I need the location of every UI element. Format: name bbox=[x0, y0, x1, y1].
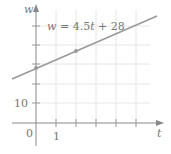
y-axis-label: w bbox=[24, 3, 34, 16]
equation-annotation: w = 4.5t + 28 bbox=[47, 20, 125, 33]
y-tick-label-10: 10 bbox=[14, 97, 28, 110]
grid-horizontal bbox=[36, 26, 150, 103]
x-tick-label-1: 1 bbox=[53, 130, 60, 143]
origin-label: 0 bbox=[26, 127, 33, 140]
x-axis-label: t bbox=[157, 127, 162, 140]
y-axis bbox=[32, 4, 40, 146]
point-t0 bbox=[34, 66, 38, 70]
chart: w t 0 1 10 w = 4.5t + 28 bbox=[0, 0, 171, 154]
point-t2 bbox=[74, 49, 78, 53]
x-axis bbox=[12, 119, 164, 127]
